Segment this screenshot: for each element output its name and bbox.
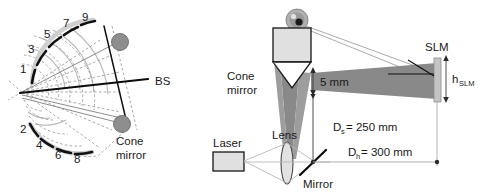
right-panel-group: 5 mm h SLM SLM Cone mirror Laser Lens xyxy=(213,9,474,190)
slm-height-arrow-down xyxy=(443,97,449,103)
distance-s-subscript: s xyxy=(341,127,345,136)
cone-mirror-body xyxy=(273,28,311,62)
distance-h-dimension: D h = 300 mm xyxy=(313,102,439,166)
viewing-zone-circle-lower xyxy=(114,116,131,133)
label-arc-number-6: 6 xyxy=(55,149,61,161)
viewing-zone-circle-upper xyxy=(112,34,129,51)
left-cone-mirror-label-line1: Cone xyxy=(116,135,144,147)
observer-eye-pupil xyxy=(295,18,302,25)
distance-h-subscript: h xyxy=(356,152,360,161)
virtual-ray-8 xyxy=(8,80,22,92)
beam-thickness-label: 5 mm xyxy=(320,76,349,88)
slm-height-subscript: SLM xyxy=(459,79,474,88)
label-arc-number-3: 3 xyxy=(28,43,34,55)
beamsplitter-line xyxy=(20,79,148,93)
label-arc-number-1: 1 xyxy=(20,63,26,75)
slm-height-symbol: h xyxy=(452,73,458,85)
lens-element xyxy=(281,142,293,184)
laser-label: Laser xyxy=(213,137,242,149)
label-arc-number-2: 2 xyxy=(20,123,26,135)
slm-height-dimension: h SLM xyxy=(443,55,474,103)
virtual-ray-3 xyxy=(22,72,120,92)
beamsplitter-label: BS xyxy=(155,75,171,87)
virtual-ray-7 xyxy=(22,92,100,148)
wavefront-arc-5 xyxy=(28,112,50,118)
figure-root: 1 3 5 7 9 2 4 6 8 BS Cone mirror xyxy=(0,0,488,194)
right-cone-mirror-label-line1: Cone xyxy=(227,70,255,82)
laser-source xyxy=(213,152,244,171)
distance-s-value: = 250 mm xyxy=(346,121,397,133)
slm-panel xyxy=(434,58,441,102)
observer-eye-highlight xyxy=(291,14,296,19)
real-ray-mid xyxy=(22,95,121,118)
lens-label: Lens xyxy=(272,129,297,141)
right-cone-mirror-label-line2: mirror xyxy=(227,84,257,96)
optical-setup-diagram: 1 3 5 7 9 2 4 6 8 BS Cone mirror xyxy=(0,0,488,194)
distance-h-endpoint xyxy=(435,160,439,164)
label-arc-number-9: 9 xyxy=(82,11,88,23)
slm-height-arrow-up xyxy=(443,55,449,61)
label-arc-number-5: 5 xyxy=(44,28,50,40)
beam-thickness-arrow-up xyxy=(310,67,316,73)
distance-s-arrow-top xyxy=(310,94,315,99)
slm-label: SLM xyxy=(425,41,449,53)
left-cone-mirror-label-line2: mirror xyxy=(116,149,146,161)
mirror-label: Mirror xyxy=(303,178,333,190)
label-arc-number-7: 7 xyxy=(63,17,69,29)
left-panel-group: 1 3 5 7 9 2 4 6 8 BS Cone mirror xyxy=(8,11,171,165)
label-arc-number-4: 4 xyxy=(36,139,43,151)
virtual-arc-6 xyxy=(24,100,42,111)
laser-beam-upper xyxy=(244,143,287,161)
label-arc-number-8: 8 xyxy=(74,153,80,165)
distance-h-value: = 300 mm xyxy=(361,146,412,158)
